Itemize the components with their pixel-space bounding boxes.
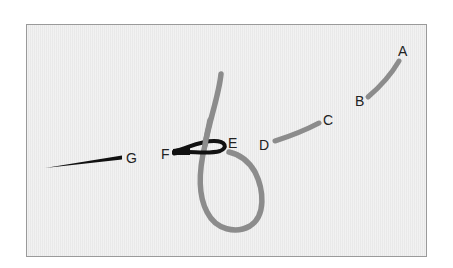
point-label-c: C	[323, 113, 333, 127]
stitch-diagram: A B C D E F G	[0, 0, 453, 268]
diagram-canvas	[0, 0, 453, 268]
needle-shaft	[45, 156, 122, 169]
point-label-b: B	[355, 94, 364, 108]
point-label-g: G	[126, 151, 137, 165]
point-label-e: E	[228, 136, 237, 150]
point-label-d: D	[259, 138, 269, 152]
thread-stitch-a-b	[368, 61, 399, 97]
point-label-a: A	[398, 44, 407, 58]
thread-stitch-c-d	[275, 123, 319, 141]
needle-eye-shank	[173, 147, 190, 155]
point-label-f: F	[161, 147, 170, 161]
